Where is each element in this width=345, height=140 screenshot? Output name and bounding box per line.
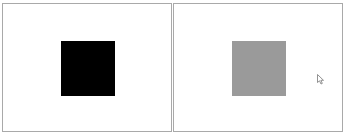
mouse-pointer-icon [317, 74, 325, 85]
black-square[interactable] [61, 41, 115, 96]
left-panel [2, 3, 172, 132]
gray-square[interactable] [232, 41, 286, 96]
right-panel [173, 3, 343, 132]
